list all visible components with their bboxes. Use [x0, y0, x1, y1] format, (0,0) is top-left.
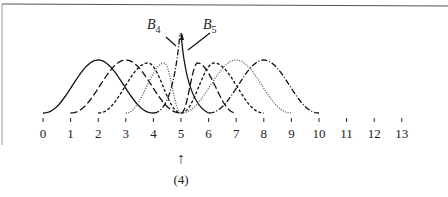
tick-label: 3 — [123, 126, 130, 142]
basis-curves — [43, 33, 319, 113]
axis-ticks — [43, 118, 402, 122]
tick-label: 0 — [40, 126, 47, 142]
tick-label: 12 — [368, 126, 381, 142]
up-arrow-icon: ↑ — [177, 150, 185, 167]
tick-label: 7 — [233, 126, 240, 142]
tick-label: 9 — [288, 126, 295, 142]
b5-leader-line — [188, 33, 210, 50]
frame-top — [2, 4, 448, 6]
tick-label: 5 — [178, 126, 185, 142]
b4-leader-line — [166, 37, 176, 46]
tick-label: 10 — [313, 126, 326, 142]
multiplicity-label: (4) — [173, 172, 188, 188]
bspline-figure — [0, 0, 448, 197]
basis-curve-b8 — [181, 60, 291, 113]
tick-label: 4 — [150, 126, 157, 142]
tick-label: 6 — [205, 126, 212, 142]
tick-label: 2 — [95, 126, 102, 142]
tick-label: 8 — [261, 126, 268, 142]
b5-label: B5 — [203, 17, 217, 35]
tick-label: 13 — [395, 126, 408, 142]
tick-label: 11 — [340, 126, 353, 142]
basis-curve-b0 — [43, 60, 153, 113]
tick-label: 1 — [67, 126, 74, 142]
b4-label: B4 — [147, 17, 161, 35]
basis-curve-b6 — [181, 63, 236, 113]
